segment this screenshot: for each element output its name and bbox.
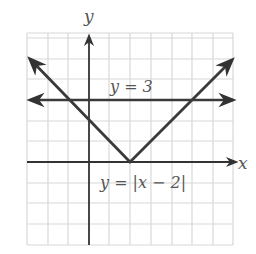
abs-label: y = |x − 2| <box>99 173 186 192</box>
line-label: y = 3 <box>109 77 153 96</box>
y-axis-label: y <box>83 6 94 26</box>
grid <box>27 33 233 245</box>
curve-abs-x-minus-2 <box>30 59 232 162</box>
graph: y x y = 3 y = |x − 2| <box>0 0 256 254</box>
x-axis-label: x <box>238 153 248 173</box>
